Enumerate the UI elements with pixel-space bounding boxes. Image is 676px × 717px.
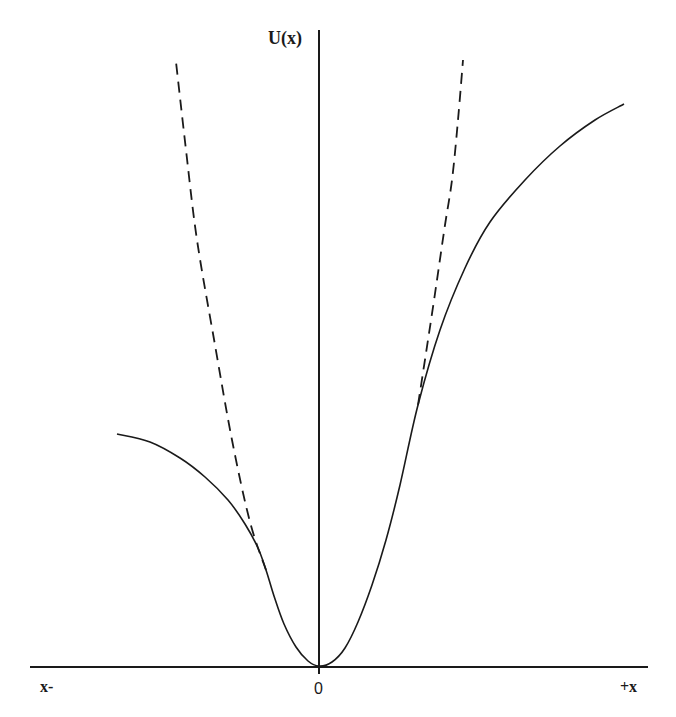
solid-potential-curve bbox=[117, 104, 624, 666]
dashed-curve-2 bbox=[418, 60, 463, 405]
dashed-curve-1 bbox=[176, 62, 266, 570]
series-layer bbox=[117, 60, 624, 666]
x-axis-right-label: +x bbox=[620, 678, 637, 695]
x-axis-left-label: x- bbox=[40, 678, 53, 695]
potential-energy-chart: U(x) x- +x 0 bbox=[0, 0, 676, 717]
y-axis-label: U(x) bbox=[268, 28, 302, 49]
origin-label: 0 bbox=[314, 680, 323, 697]
